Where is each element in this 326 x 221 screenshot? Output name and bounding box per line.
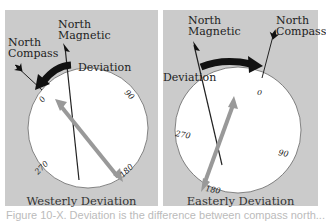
svg-text:90: 90 <box>278 148 290 159</box>
north-magnetic-label: North Magnetic <box>58 19 111 41</box>
deviation-label: Deviation <box>78 62 131 73</box>
figure-caption: Figure 10-X. Deviation is the difference… <box>6 209 325 221</box>
easterly-deviation-panel: 0 90 180 270 North Magnetic North Compas… <box>163 10 318 206</box>
westerly-deviation-panel: 0 90 180 270 North Magnetic North Compas… <box>5 10 158 206</box>
westerly-deviation-caption: Westerly Deviation <box>5 194 158 208</box>
compass-dial <box>175 67 301 193</box>
easterly-compass-diagram: 0 90 180 270 <box>163 10 318 206</box>
north-compass-label: North Compass <box>8 37 58 59</box>
deviation-label: Deviation <box>163 72 216 83</box>
north-compass-line <box>262 36 273 78</box>
svg-text:0: 0 <box>257 88 262 97</box>
deviation-arrow-icon <box>201 62 251 67</box>
north-magnetic-label: North Magnetic <box>188 15 241 37</box>
easterly-deviation-caption: Easterly Deviation <box>163 194 318 208</box>
north-compass-label: North Compass <box>276 15 326 37</box>
north-magnetic-arrowhead-icon <box>63 43 70 52</box>
